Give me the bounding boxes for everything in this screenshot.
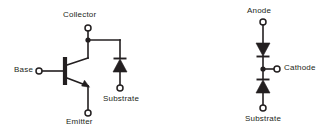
substrate-diode-triangle: [113, 59, 127, 72]
cathode-terminal[interactable]: [274, 66, 280, 72]
substrate-terminal-right[interactable]: [260, 105, 266, 111]
collector-slant-lead: [67, 58, 88, 65]
schematic-canvas: Collector Base Emitter Substrate Anode C…: [0, 0, 331, 132]
schematic-drawing: [0, 0, 331, 132]
top-diode-triangle: [256, 43, 270, 56]
diode-pair-symbol: [256, 19, 280, 111]
substrate-label-right: Substrate: [245, 115, 281, 123]
cathode-label: Cathode: [284, 64, 316, 72]
anode-label: Anode: [247, 7, 271, 15]
anode-terminal[interactable]: [260, 19, 266, 25]
substrate-diode-left-symbol: [88, 40, 127, 91]
base-label: Base: [14, 66, 33, 74]
collector-terminal[interactable]: [85, 25, 91, 31]
npn-transistor-symbol: [36, 25, 91, 116]
base-terminal[interactable]: [36, 68, 42, 74]
emitter-terminal[interactable]: [85, 110, 91, 116]
bottom-diode-triangle: [256, 80, 270, 93]
emitter-label: Emitter: [66, 118, 93, 126]
collector-label: Collector: [63, 11, 96, 19]
substrate-label-left: Substrate: [103, 95, 139, 103]
substrate-terminal-left[interactable]: [117, 85, 123, 91]
